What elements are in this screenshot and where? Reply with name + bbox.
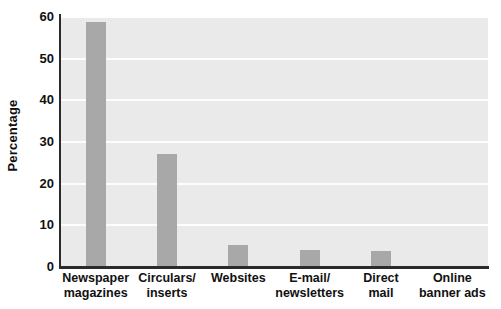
y-tick-label: 20 (40, 175, 54, 190)
gridline (60, 16, 488, 18)
x-category-label: Newspapermagazines (62, 271, 129, 301)
x-category-label: Circulars/inserts (138, 271, 196, 301)
x-category-label-line: banner ads (419, 286, 486, 301)
x-category-label-line: E-mail/ (275, 271, 344, 286)
bar (371, 251, 391, 266)
y-tick-label: 60 (40, 9, 54, 24)
y-axis-line (59, 14, 61, 268)
y-tick-label: 50 (40, 50, 54, 65)
gridline (60, 58, 488, 60)
gridline (60, 183, 488, 185)
x-category-label-line: Direct (363, 271, 398, 286)
x-category-label: E-mail/newsletters (275, 271, 344, 301)
x-category-label-line: mail (363, 286, 398, 301)
x-category-label-line: Newspaper (62, 271, 129, 286)
y-axis-title-text: Percentage (5, 99, 20, 171)
x-category-label-line: inserts (138, 286, 196, 301)
x-category-label-line: Websites (211, 271, 266, 286)
y-tick-label: 30 (40, 134, 54, 149)
y-axis-tick-labels: 0102030405060 (24, 0, 58, 275)
x-category-label-line: Circulars/ (138, 271, 196, 286)
bar (86, 22, 106, 266)
x-axis-line (59, 266, 489, 269)
y-tick-label: 0 (47, 259, 54, 274)
x-axis-category-labels: NewspapermagazinesCirculars/insertsWebsi… (60, 271, 488, 309)
x-category-label-line: magazines (62, 286, 129, 301)
bar-chart: Percentage 0102030405060 Newspapermagazi… (0, 0, 501, 309)
x-category-label: Onlinebanner ads (419, 271, 486, 301)
gridline (60, 224, 488, 226)
gridline (60, 99, 488, 101)
y-axis-title: Percentage (0, 0, 24, 270)
bar (157, 154, 177, 266)
bar (228, 245, 248, 266)
gridline (60, 141, 488, 143)
bar (300, 250, 320, 266)
plot-area (60, 16, 488, 266)
x-category-label-line: Online (419, 271, 486, 286)
x-category-label: Websites (211, 271, 266, 286)
x-category-label: Directmail (363, 271, 398, 301)
y-tick-label: 10 (40, 217, 54, 232)
x-category-label-line: newsletters (275, 286, 344, 301)
y-tick-label: 40 (40, 92, 54, 107)
